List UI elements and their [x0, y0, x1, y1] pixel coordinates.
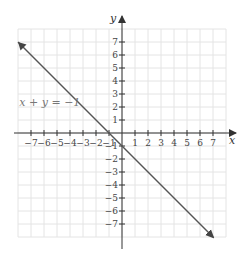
x-tick-label: 5 — [184, 138, 190, 148]
axis-labels: x y x + y = −1 — [19, 12, 236, 147]
y-tick-label: 2 — [112, 102, 118, 112]
x-tick-label: −6 — [37, 138, 51, 148]
x-tick-label: −7 — [24, 138, 38, 148]
y-tick-label: −6 — [105, 206, 119, 216]
y-tick-label: −7 — [105, 219, 119, 229]
y-tick-label: 1 — [112, 115, 118, 125]
y-tick-label: −4 — [105, 180, 119, 190]
y-axis-label: y — [109, 12, 117, 25]
axes — [14, 16, 236, 249]
y-tick-label: −5 — [105, 193, 119, 203]
x-tick-label: 4 — [171, 138, 177, 148]
x-tick-label: 7 — [210, 138, 216, 148]
y-tick-label: 3 — [112, 89, 118, 99]
y-tick-label: −3 — [105, 167, 119, 177]
x-tick-label: 1 — [132, 138, 138, 148]
y-tick-label: −1 — [105, 141, 118, 151]
x-tick-label: 2 — [145, 138, 151, 148]
x-tick-label: 6 — [197, 138, 203, 148]
x-tick-label: 3 — [158, 138, 164, 148]
equation-label: x + y = −1 — [19, 96, 80, 109]
x-tick-label: −2 — [89, 138, 102, 148]
y-tick-label: 5 — [112, 63, 118, 73]
y-tick-label: 6 — [112, 50, 118, 60]
y-tick-label: 7 — [112, 37, 118, 47]
x-axis-label: x — [229, 134, 236, 147]
x-tick-label: −4 — [63, 138, 77, 148]
x-tick-label: −5 — [50, 138, 64, 148]
y-tick-label: −2 — [105, 154, 118, 164]
coordinate-plane: −7−6−5−4−3−2−11234567−7−6−5−4−3−2−112345… — [0, 0, 248, 255]
y-tick-label: 4 — [112, 76, 118, 86]
x-tick-label: −3 — [76, 138, 90, 148]
